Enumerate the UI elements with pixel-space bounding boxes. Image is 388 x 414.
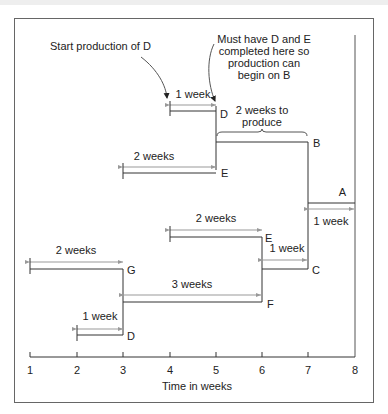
svg-text:B: B bbox=[313, 137, 320, 149]
svg-text:2 weeks: 2 weeks bbox=[134, 150, 175, 162]
svg-text:2 weeks to: 2 weeks to bbox=[236, 104, 289, 116]
segment-e-lower: 2 weeks E bbox=[170, 212, 272, 244]
svg-text:G: G bbox=[127, 264, 136, 276]
annotation-start-d: Start production of D bbox=[50, 40, 151, 52]
brace-icon bbox=[217, 129, 307, 136]
svg-text:D: D bbox=[220, 108, 228, 120]
svg-text:1 week: 1 week bbox=[176, 88, 211, 100]
svg-text:completed here so: completed here so bbox=[219, 45, 310, 57]
segment-b: 2 weeks to produce B bbox=[216, 104, 320, 269]
svg-text:1 week: 1 week bbox=[270, 242, 305, 254]
svg-text:F: F bbox=[267, 298, 274, 310]
svg-text:1 week: 1 week bbox=[314, 215, 349, 227]
arrow-start-d-icon bbox=[141, 57, 167, 98]
time-axis: 1 2 3 4 5 6 7 8 Time in weeks bbox=[27, 352, 358, 392]
frame bbox=[15, 19, 374, 403]
segment-f: 3 weeks F bbox=[123, 278, 274, 310]
svg-text:C: C bbox=[312, 264, 320, 276]
tick-6: 6 bbox=[259, 364, 265, 376]
svg-text:production can: production can bbox=[228, 57, 300, 69]
tick-8: 8 bbox=[352, 364, 358, 376]
axis-label: Time in weeks bbox=[162, 380, 232, 392]
assembly-time-diagram: 1 2 3 4 5 6 7 8 Time in weeks Start prod… bbox=[0, 0, 388, 414]
tick-2: 2 bbox=[74, 364, 80, 376]
segment-d-top: 1 week D bbox=[170, 88, 228, 120]
svg-text:2 weeks: 2 weeks bbox=[196, 212, 237, 224]
svg-text:1 week: 1 week bbox=[83, 310, 118, 322]
svg-text:E: E bbox=[221, 167, 228, 179]
segment-g: 2 weeks G bbox=[30, 244, 136, 276]
svg-text:produce: produce bbox=[242, 116, 282, 128]
tick-4: 4 bbox=[167, 364, 173, 376]
svg-text:A: A bbox=[339, 186, 347, 198]
svg-text:2 weeks: 2 weeks bbox=[56, 244, 97, 256]
segment-e-top: 2 weeks E bbox=[123, 150, 228, 179]
segment-d-lower: 1 week D bbox=[77, 310, 135, 342]
svg-text:begin on B: begin on B bbox=[238, 69, 291, 81]
svg-text:3 weeks: 3 weeks bbox=[172, 278, 213, 290]
tick-7: 7 bbox=[305, 364, 311, 376]
annotation-must-have: Must have D and E completed here so prod… bbox=[217, 33, 311, 81]
tick-3: 3 bbox=[120, 364, 126, 376]
segment-a: A 1 week bbox=[308, 186, 355, 227]
tick-5: 5 bbox=[213, 364, 219, 376]
tick-1: 1 bbox=[27, 364, 33, 376]
svg-text:Must have D and E: Must have D and E bbox=[217, 33, 311, 45]
svg-text:D: D bbox=[127, 330, 135, 342]
segment-c: 1 week C bbox=[262, 242, 320, 276]
